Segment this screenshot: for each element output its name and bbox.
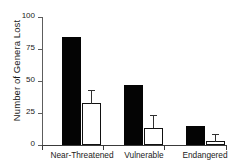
error-cap-open-vulnerable [150, 115, 157, 116]
y-tick-label-25: 25 [26, 107, 35, 116]
error-cap-open-endangered [212, 134, 219, 135]
category-label-vulnerable: Vulnerable [124, 150, 163, 160]
bar-filled-vulnerable [124, 85, 143, 145]
error-bar-open-vulnerable [153, 115, 154, 128]
x-axis-line [42, 145, 227, 146]
y-tick-75: 75 [38, 49, 42, 50]
y-axis-title: Number of Genera Lost [11, 6, 22, 136]
plot-area: 100 75 50 25 0 [42, 17, 227, 146]
x-tick-2 [164, 146, 165, 150]
y-tick-25: 25 [38, 113, 42, 114]
error-bar-open-endangered [215, 134, 216, 142]
y-tick-label-0: 0 [31, 139, 35, 148]
y-axis-line [42, 17, 43, 146]
bar-filled-endangered [186, 126, 205, 145]
error-cap-open-near-threatened [88, 90, 95, 91]
x-tick-0 [42, 146, 43, 150]
y-tick-label-50: 50 [26, 75, 35, 84]
bar-open-near-threatened [82, 103, 101, 145]
bar-chart: Number of Genera Lost 100 75 50 25 0 [0, 0, 229, 167]
y-tick-label-75: 75 [26, 43, 35, 52]
y-tick-label-100: 100 [22, 11, 35, 20]
bar-open-vulnerable [144, 128, 163, 145]
error-bar-open-near-threatened [91, 90, 92, 104]
y-tick-100: 100 [38, 17, 42, 18]
bar-filled-near-threatened [62, 37, 81, 145]
y-tick-50: 50 [38, 81, 42, 82]
category-label-near-threatened: Near-Threatened [50, 150, 113, 160]
category-label-endangered: Endangered [182, 150, 227, 160]
